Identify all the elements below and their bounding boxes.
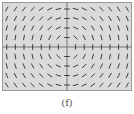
slope-field-plot <box>2 2 132 91</box>
figure-label: (f) <box>0 97 134 108</box>
